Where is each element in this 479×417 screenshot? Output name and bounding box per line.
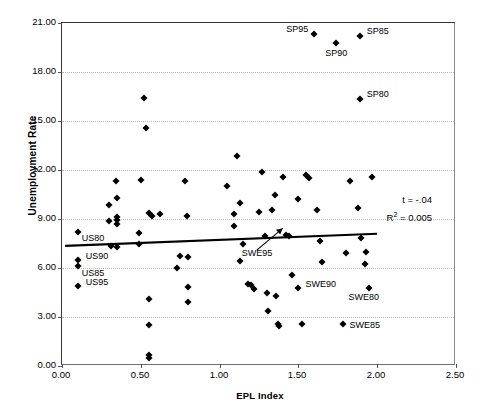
y-tick-0: 0.00 (12, 360, 56, 370)
point-label-us90: US90 (86, 252, 109, 261)
stat-r-squared: R2 = 0.005 (302, 208, 432, 224)
point-label-sp95: SP95 (286, 25, 308, 34)
point-label-swe95: SWE95 (242, 249, 273, 258)
x-tick-0: 0.00 (38, 370, 84, 380)
point-label-us80: US80 (82, 234, 105, 243)
y-tick-21: 21.00 (12, 17, 56, 27)
y-tick-6: 6.00 (12, 262, 56, 272)
x-tick-mark-1 (220, 364, 221, 368)
x-tick-mark-0p5 (141, 364, 142, 368)
x-tick-050: 0.50 (117, 370, 163, 380)
x-tick-mark-2 (377, 364, 378, 368)
x-tick-200: 2.00 (353, 370, 399, 380)
point-label-swe80: SWE80 (349, 293, 380, 302)
point-label-sp85: SP85 (367, 27, 389, 36)
y-tick-12: 12.00 (12, 164, 56, 174)
x-tick-mark-2p5 (456, 364, 457, 368)
y-tick-15: 15.00 (12, 115, 56, 125)
x-tick-150: 1.50 (274, 370, 320, 380)
figure-caption (22, 404, 462, 417)
x-tick-mark-0 (62, 364, 63, 368)
stat-t-value: t = -.04 (312, 193, 432, 206)
y-axis-tick-labels: 21.00 18.00 15.00 12.00 9.00 6.00 3.00 0… (0, 0, 56, 417)
y-tick-9: 9.00 (12, 213, 56, 223)
point-label-sp90: SP90 (325, 49, 347, 58)
point-label-sp80: SP80 (367, 90, 389, 99)
x-tick-100: 1.00 (196, 370, 242, 380)
y-tick-18: 18.00 (12, 66, 56, 76)
plot-area: SP95SP90SP85SP80US80US90US85US95SWE95SWE… (61, 22, 455, 365)
point-label-swe85: SWE85 (350, 321, 381, 330)
point-label-us95: US95 (86, 278, 109, 287)
x-tick-250: 2.50 (432, 370, 478, 380)
x-tick-mark-1p5 (298, 364, 299, 368)
point-label-swe90: SWE90 (305, 280, 336, 289)
scatter-plot-figure: Unemployment Rate 21.00 18.00 15.00 12.0… (0, 0, 479, 417)
y-tick-3: 3.00 (12, 311, 56, 321)
x-axis-title: EPL Index (180, 390, 340, 401)
